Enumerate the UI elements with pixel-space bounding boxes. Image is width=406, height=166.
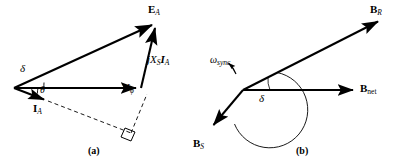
panel-caption-b: (b) xyxy=(296,146,308,156)
vector-ea-line xyxy=(14,25,152,88)
label-bs: BS xyxy=(193,138,204,150)
label-ia: IA xyxy=(33,103,42,115)
angle-tick-delta-b xyxy=(268,77,270,90)
label-jxsia: jXSIA xyxy=(147,50,169,66)
angle-arc-delta-b xyxy=(235,73,308,148)
dashed-perpendicular-drop xyxy=(131,94,147,133)
label-theta-a: θ xyxy=(40,85,45,95)
vector-bs-line xyxy=(214,90,244,125)
label-vphi: Vϕ xyxy=(122,82,134,94)
construction-lines-a xyxy=(48,94,147,141)
label-delta-a: δ xyxy=(20,63,25,74)
label-bnet: Bnet xyxy=(360,83,377,95)
dashed-current-extension xyxy=(48,101,131,133)
phasor-and-field-diagram-figure: EA jXSIA Vϕ IA δ θ (a) BR Bnet BS ωsync … xyxy=(0,0,406,166)
label-br: BR xyxy=(370,4,382,16)
label-omega-sync: ωsync xyxy=(210,50,230,66)
vector-br-line xyxy=(243,22,378,91)
panel-caption-a: (a) xyxy=(88,146,100,156)
label-ea: EA xyxy=(148,4,160,16)
label-delta-b: δ xyxy=(259,93,264,104)
angle-arc-theta-a xyxy=(37,88,38,94)
